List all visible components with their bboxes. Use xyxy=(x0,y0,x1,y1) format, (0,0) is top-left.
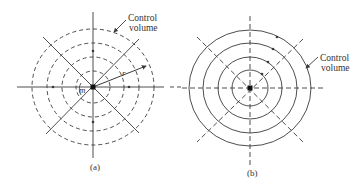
control-volume-label-a: Control xyxy=(128,13,157,23)
panel-b: Control volume (b) xyxy=(182,16,350,178)
control-volume-label-b: Control xyxy=(320,53,349,63)
caption-a: (a) xyxy=(90,162,100,172)
panel-b-dashed-lines xyxy=(182,16,326,165)
flow-arrow-icon xyxy=(267,61,270,64)
control-volume-leader-b xyxy=(306,57,318,68)
panel-a-radial-lines xyxy=(17,12,182,158)
flow-arrow-icon xyxy=(52,86,55,89)
center-point-a xyxy=(91,85,96,90)
radius-vector xyxy=(93,66,146,87)
center-point-b xyxy=(248,86,253,91)
flow-arrow-icon xyxy=(272,48,275,51)
radius-label: r xyxy=(122,68,126,78)
figure-canvas: m r Control volume (a) Control volume (b… xyxy=(0,0,364,189)
caption-b: (b) xyxy=(247,168,258,178)
flow-arrow-icon xyxy=(261,73,264,76)
flow-arrow-icon xyxy=(92,121,95,124)
panel-a: m r Control volume (a) xyxy=(17,12,182,172)
flow-arrow-icon xyxy=(128,86,131,89)
flow-arrow-icon xyxy=(276,36,279,39)
control-volume-leader-a xyxy=(114,20,126,32)
flow-arrow-icon xyxy=(92,50,95,53)
mass-label: m xyxy=(79,85,86,95)
control-volume-label-a-line2: volume xyxy=(129,23,158,33)
control-volume-label-b-line2: volume xyxy=(321,63,350,73)
